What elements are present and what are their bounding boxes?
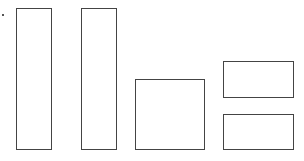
wide-rectangle-bottom <box>223 114 294 150</box>
wide-rectangle-top <box>223 61 294 98</box>
tall-rectangle-2 <box>81 8 117 150</box>
tall-rectangle-1 <box>16 8 52 150</box>
square <box>135 79 205 150</box>
stray-dot <box>2 14 4 16</box>
